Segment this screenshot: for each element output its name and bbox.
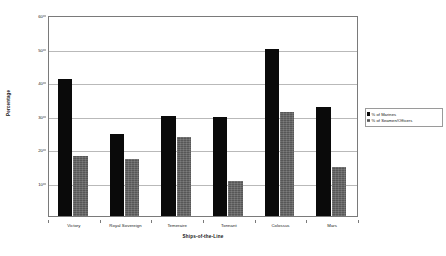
- y-tick-mark-20: [43, 150, 46, 151]
- legend-swatch-icon-0: [367, 112, 370, 115]
- bar-mars-series-0: [316, 107, 331, 216]
- chart-legend: % of Marines% of Seamen/Officers: [365, 108, 443, 127]
- x-tick-label-royal-sovereign: Royal Sovereign: [109, 223, 141, 228]
- y-tick-mark-60: [43, 16, 46, 17]
- bar-colossus-series-0: [265, 49, 280, 217]
- bar-tonnant-series-0: [213, 117, 228, 216]
- bar-temeraire-series-1: [177, 137, 192, 216]
- x-tick-mark-3: [203, 220, 204, 223]
- x-tick-mark-5: [306, 220, 307, 223]
- bar-temeraire-series-0: [161, 116, 176, 217]
- bar-victory-series-0: [58, 79, 73, 216]
- x-tick-mark-2: [151, 220, 152, 223]
- bars-layer: [49, 17, 357, 216]
- x-tick-label-mars: Mars: [327, 223, 337, 228]
- x-tick-label-victory: Victory: [67, 223, 80, 228]
- bar-chart: Percentage 605040302010 VictoryRoyal Sov…: [0, 0, 446, 256]
- x-tick-mark-1: [100, 220, 101, 223]
- x-tick-label-colossus: Colossus: [271, 223, 289, 228]
- legend-item-0: % of Marines: [367, 111, 440, 117]
- x-axis-tick-labels: VictoryRoyal SovereignTemeraireTonnantCo…: [48, 220, 358, 232]
- legend-label-0: % of Marines: [372, 112, 397, 117]
- y-axis-title: Percentage: [6, 90, 11, 116]
- bar-royal-sovereign-series-0: [110, 134, 125, 216]
- bar-mars-series-1: [332, 167, 347, 216]
- plot-area: [48, 16, 358, 217]
- y-axis-tick-labels: 605040302010: [22, 16, 46, 217]
- x-axis-title: Ships-of-the-Line: [48, 234, 358, 239]
- bar-colossus-series-1: [280, 112, 295, 216]
- y-tick-mark-50: [43, 49, 46, 50]
- x-tick-label-temeraire: Temeraire: [167, 223, 187, 228]
- bar-royal-sovereign-series-1: [125, 159, 140, 216]
- legend-label-1: % of Seamen/Officers: [372, 118, 413, 123]
- x-tick-label-tonnant: Tonnant: [221, 223, 237, 228]
- bar-tonnant-series-1: [228, 181, 243, 216]
- y-tick-mark-30: [43, 116, 46, 117]
- bar-victory-series-1: [73, 156, 88, 216]
- x-tick-mark-4: [255, 220, 256, 223]
- legend-swatch-icon-1: [367, 119, 370, 122]
- x-tick-mark-0: [48, 220, 49, 223]
- legend-item-1: % of Seamen/Officers: [367, 118, 440, 124]
- y-tick-mark-40: [43, 83, 46, 84]
- y-tick-mark-10: [43, 183, 46, 184]
- x-tick-mark-6: [358, 220, 359, 223]
